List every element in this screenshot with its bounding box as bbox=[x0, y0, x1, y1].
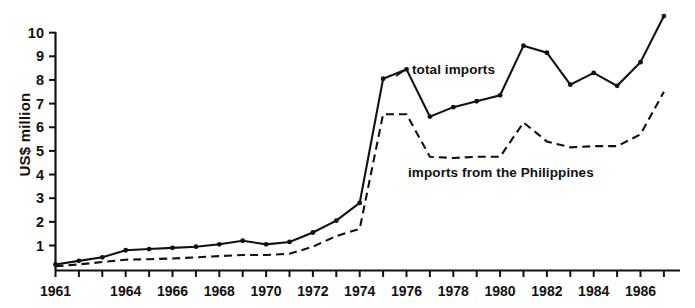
data-point-marker bbox=[474, 99, 479, 104]
x-tick-label: 1980 bbox=[485, 283, 516, 299]
series-label-philippines-imports: imports from the Philippines bbox=[408, 165, 594, 180]
y-tick-label: 2 bbox=[36, 214, 44, 230]
y-axis-title: US$ million bbox=[16, 65, 33, 205]
y-tick-label: 1 bbox=[36, 238, 44, 254]
data-point-marker bbox=[194, 244, 199, 249]
data-point-marker bbox=[53, 262, 58, 267]
data-point-marker bbox=[77, 258, 82, 263]
x-tick-label: 1978 bbox=[438, 283, 469, 299]
data-point-marker bbox=[240, 238, 245, 243]
plot-area: 12345678910 1961196419661968197019721974… bbox=[0, 0, 695, 308]
x-tick-label: 1972 bbox=[297, 283, 328, 299]
y-tick-label: 7 bbox=[36, 96, 44, 112]
data-point-marker bbox=[357, 201, 362, 206]
data-point-marker bbox=[451, 105, 456, 110]
x-axis-ticks: 1961196419661968197019721974197619781980… bbox=[40, 270, 664, 299]
y-tick-label: 9 bbox=[36, 48, 44, 64]
y-tick-label: 5 bbox=[36, 143, 44, 159]
data-point-marker bbox=[170, 245, 175, 250]
data-point-marker bbox=[311, 230, 316, 235]
y-tick-label: 6 bbox=[36, 119, 44, 135]
data-point-marker bbox=[381, 76, 386, 81]
x-tick-label: 1966 bbox=[157, 283, 188, 299]
data-point-marker bbox=[568, 82, 573, 87]
x-tick-label: 1982 bbox=[531, 283, 562, 299]
x-tick-label: 1964 bbox=[110, 283, 141, 299]
data-point-marker bbox=[428, 114, 433, 119]
data-point-marker bbox=[287, 240, 292, 245]
y-tick-label: 8 bbox=[36, 72, 44, 88]
data-point-marker bbox=[334, 218, 339, 223]
series-markers-total-imports bbox=[53, 14, 666, 267]
data-point-marker bbox=[521, 43, 526, 48]
x-tick-label: 1961 bbox=[40, 283, 71, 299]
line-chart: 12345678910 1961196419661968197019721974… bbox=[0, 0, 695, 308]
data-point-marker bbox=[498, 93, 503, 98]
data-point-marker bbox=[100, 255, 105, 260]
series-line-total-imports bbox=[56, 16, 664, 264]
x-tick-label: 1970 bbox=[251, 283, 282, 299]
data-point-marker bbox=[662, 14, 667, 19]
data-point-marker bbox=[638, 60, 643, 65]
y-tick-label: 10 bbox=[28, 25, 44, 41]
data-point-marker bbox=[591, 70, 596, 75]
x-tick-label: 1984 bbox=[578, 283, 609, 299]
y-tick-label: 4 bbox=[36, 167, 44, 183]
y-tick-label: 3 bbox=[36, 190, 44, 206]
data-point-marker bbox=[615, 83, 620, 88]
series-label-total-imports: total imports bbox=[412, 62, 495, 77]
x-tick-label: 1986 bbox=[625, 283, 656, 299]
data-point-marker bbox=[147, 247, 152, 252]
data-point-marker bbox=[123, 248, 128, 253]
data-point-marker bbox=[264, 242, 269, 247]
x-tick-label: 1968 bbox=[204, 283, 235, 299]
x-tick-label: 1974 bbox=[344, 283, 375, 299]
x-tick-label: 1976 bbox=[391, 283, 422, 299]
data-point-marker bbox=[545, 50, 550, 55]
data-point-marker bbox=[217, 242, 222, 247]
